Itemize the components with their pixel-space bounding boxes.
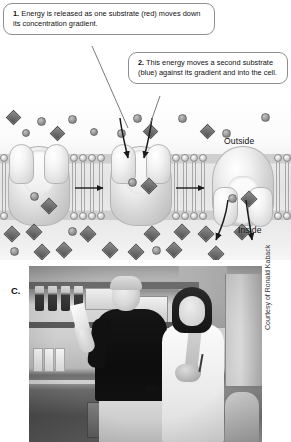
callout-box-1: 1. Energy is released as one substrate (… bbox=[3, 3, 215, 35]
callout-1-text: Energy is released as one substrate (red… bbox=[13, 9, 200, 28]
photo-vignette bbox=[29, 266, 262, 442]
label-inside: Inside bbox=[238, 225, 262, 235]
callout-box-2: 2. This energy moves a second substrate … bbox=[128, 52, 288, 84]
callout-2-text: This energy moves a second substrate (bl… bbox=[138, 58, 277, 77]
lab-photograph bbox=[29, 266, 262, 442]
panel-label-c: C. bbox=[11, 285, 21, 296]
photo-credit: Courtesy of Ronald Kaback bbox=[264, 245, 271, 330]
